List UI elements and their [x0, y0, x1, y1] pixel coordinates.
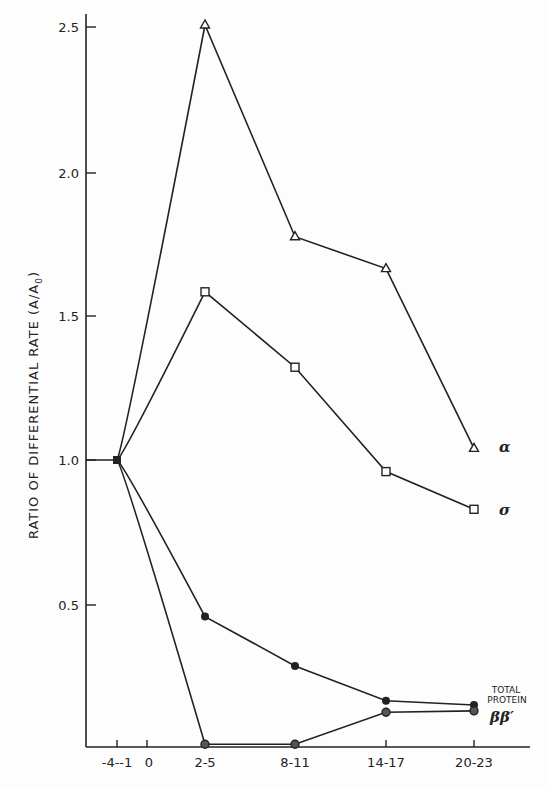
series-line-sigma — [117, 292, 474, 510]
series-line-alpha — [117, 25, 474, 460]
y-tick-label: 1.5 — [58, 309, 79, 324]
square-marker — [291, 363, 299, 371]
series-label-total: TOTAL — [491, 685, 521, 695]
x-tick-label: 14-17 — [367, 755, 405, 770]
series-label-alpha: α — [499, 438, 511, 456]
x-tick-label: 2-5 — [194, 755, 215, 770]
series-label-protein: PROTEIN — [487, 695, 526, 705]
triangle-marker — [291, 232, 300, 240]
x-tick-labels: -4--1 0 2-5 8-11 14-17 20-23 — [102, 755, 493, 770]
half-circle-marker — [291, 740, 299, 748]
triangle-marker — [201, 20, 210, 28]
triangle-marker — [470, 443, 479, 451]
series-markers — [113, 20, 479, 748]
half-circle-marker — [470, 707, 478, 715]
half-circle-marker — [201, 740, 209, 748]
filled-circle-marker — [201, 613, 209, 621]
y-tick-label: 2.0 — [58, 166, 79, 181]
filled-circle-marker — [382, 697, 390, 705]
svg-text:RATIO OF DIFFERENTIAL RATE (A/: RATIO OF DIFFERENTIAL RATE (A/A0) — [26, 271, 44, 539]
x-tick-label: -4--1 — [102, 755, 133, 770]
square-marker — [470, 505, 478, 513]
y-tick-labels: 0.5 1.0 1.5 2.0 2.5 — [58, 20, 79, 613]
y-axis-title: RATIO OF DIFFERENTIAL RATE (A/A0) — [26, 271, 44, 539]
series-lines — [117, 25, 474, 744]
y-tick-label: 2.5 — [58, 20, 79, 35]
x-tick-label: 8-11 — [280, 755, 310, 770]
x-tick-label: 20-23 — [455, 755, 493, 770]
square-marker — [382, 468, 390, 476]
y-tick-label: 0.5 — [58, 598, 79, 613]
line-chart: 0.5 1.0 1.5 2.0 2.5 -4--1 0 2-5 8-11 14-… — [0, 0, 547, 789]
series-label-sigma: σ — [499, 501, 511, 519]
filled-circle-marker — [291, 662, 299, 670]
start-point-marker — [113, 456, 121, 464]
x-tick-label: 0 — [145, 755, 153, 770]
square-marker — [201, 288, 209, 296]
half-circle-marker — [382, 708, 390, 716]
y-tick-label: 1.0 — [58, 453, 79, 468]
y-ticks — [86, 27, 96, 605]
series-line-beta-beta-prime — [117, 460, 474, 744]
series-label-betabeta: ββ′ — [489, 708, 514, 726]
